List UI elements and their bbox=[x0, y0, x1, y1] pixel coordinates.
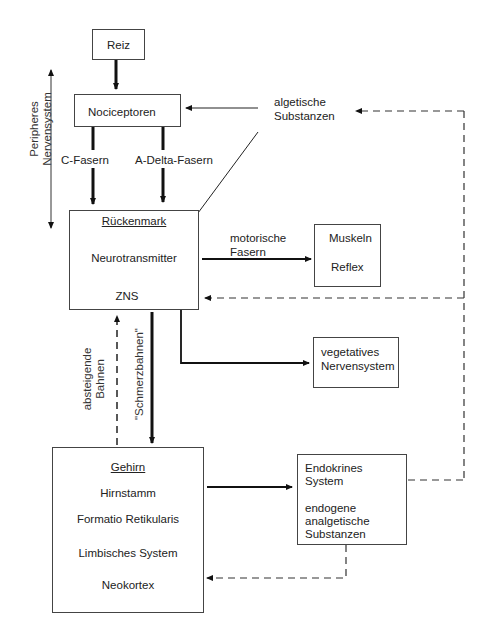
node-endokrines-system: Endokrines System endogene analgetische … bbox=[297, 454, 407, 545]
arrow-dashed-to-gehirn bbox=[207, 545, 346, 578]
label-c-fasern: C-Fasern bbox=[61, 153, 109, 167]
node-algetische-substanzen: algetische Substanzen bbox=[274, 95, 335, 123]
node-muskeln-reflex: Muskeln Reflex bbox=[314, 224, 381, 287]
label-a-delta-fasern: A-Delta-Fasern bbox=[135, 153, 213, 167]
node-rueckenmark: Rückenmark Neurotransmitter ZNS bbox=[69, 210, 199, 310]
node-gehirn: Gehirn Hirnstamm Formatio Retikularis Li… bbox=[52, 447, 204, 613]
label-peripheres-nervensystem: Peripheres Nervensystem bbox=[28, 81, 56, 177]
label-schmerzbahnen: "Schmerzbahnen" bbox=[133, 324, 147, 424]
node-vegetatives-nervensystem: vegetatives Nervensystem bbox=[313, 337, 399, 388]
arrow-vegetatives bbox=[181, 310, 309, 363]
node-reiz: Reiz bbox=[92, 29, 145, 60]
node-nociceptoren: Nociceptoren bbox=[74, 94, 181, 127]
label-motorische-fasern: motorische Fasern bbox=[230, 231, 286, 259]
label-absteigende-bahnen: absteigende Bahnen bbox=[81, 339, 109, 419]
